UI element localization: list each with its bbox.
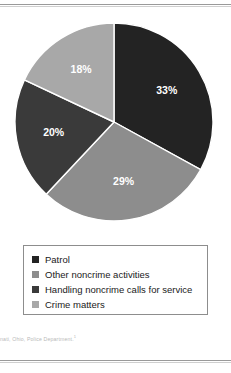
legend-swatch-icon-other-noncrime-activities	[32, 271, 39, 278]
figure-top-rule-shadow	[0, 6, 231, 7]
pie-slice-group	[15, 23, 213, 221]
legend-item-crime-matters[interactable]: Crime matters	[32, 297, 207, 312]
pie-chart: 33%29%20%18%	[14, 22, 214, 222]
pie-chart-figure: 33%29%20%18% Patrol Other noncrime activ…	[0, 0, 231, 373]
legend-label-crime-matters: Crime matters	[45, 299, 105, 310]
legend-label-handling-noncrime-calls: Handling noncrime calls for service	[45, 284, 192, 295]
pie-slice-label: 18%	[71, 63, 93, 75]
figure-footnote-marker: 1	[74, 334, 76, 339]
legend-swatch-icon-crime-matters	[32, 301, 39, 308]
legend-swatch-icon-patrol	[32, 256, 39, 263]
figure-footnote: cinnati, Ohio, Police Department.1	[0, 334, 193, 342]
legend-item-patrol[interactable]: Patrol	[32, 252, 207, 267]
legend-swatch-icon-handling-noncrime-calls	[32, 286, 39, 293]
figure-top-rule	[0, 4, 231, 5]
pie-chart-svg: 33%29%20%18%	[14, 22, 214, 222]
legend: Patrol Other noncrime activities Handlin…	[23, 245, 208, 315]
legend-label-other-noncrime-activities: Other noncrime activities	[45, 269, 150, 280]
pie-slice-label: 29%	[113, 175, 135, 187]
legend-item-handling-noncrime-calls[interactable]: Handling noncrime calls for service	[32, 282, 207, 297]
pie-slice-label: 20%	[43, 126, 65, 138]
legend-label-patrol: Patrol	[45, 254, 70, 265]
figure-bottom-rule-shadow	[0, 362, 231, 363]
pie-slice-label: 33%	[156, 84, 178, 96]
legend-item-other-noncrime-activities[interactable]: Other noncrime activities	[32, 267, 207, 282]
figure-bottom-rule	[0, 360, 231, 361]
figure-footnote-text: cinnati, Ohio, Police Department.	[0, 336, 74, 342]
